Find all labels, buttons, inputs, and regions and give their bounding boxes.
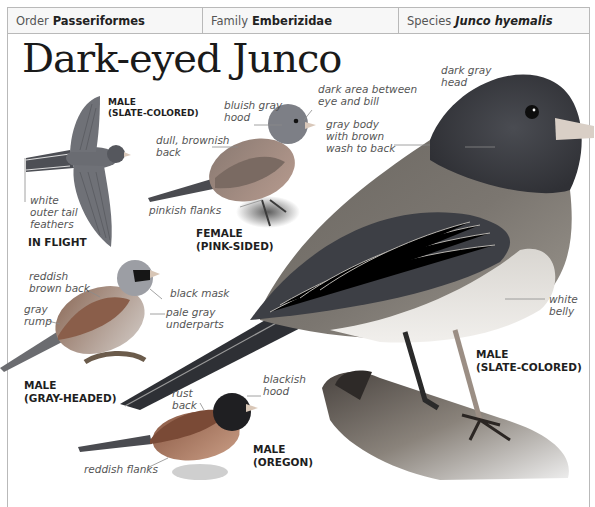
label-bluish-gray-hood-2: hood xyxy=(224,111,250,123)
label-gray-rump-2: rump xyxy=(24,315,52,327)
label-pinkish-flanks: pinkish flanks xyxy=(149,204,221,216)
label-dull-brownish-back-1: dull, brownish xyxy=(156,134,230,146)
label-gray-body-2: with brown xyxy=(326,130,384,142)
label-rust-back-1: rust xyxy=(172,387,193,399)
label-dark-area-eye-bill-2: eye and bill xyxy=(318,95,379,107)
label-white-outer-tail-2: outer tail xyxy=(30,206,78,218)
label-pale-gray-underparts-2: underparts xyxy=(166,318,224,330)
label-blackish-hood-1: blackish xyxy=(263,373,306,385)
in-flight-caption-sex: MALE xyxy=(108,97,136,108)
label-reddish-brown-back-2: brown back xyxy=(29,282,90,294)
label-dull-brownish-back-2: back xyxy=(156,146,181,158)
label-pale-gray-underparts-1: pale gray xyxy=(166,306,215,318)
label-dark-gray-head-1: dark gray xyxy=(441,64,491,76)
slate-male-caption-form: (SLATE-COLORED) xyxy=(476,361,582,374)
oregon-caption-form: (OREGON) xyxy=(253,456,313,469)
label-dark-area-eye-bill-1: dark area between xyxy=(318,83,417,95)
label-white-belly-2: belly xyxy=(549,305,574,317)
slate-male-caption-sex: MALE xyxy=(476,348,508,361)
label-white-belly-1: white xyxy=(549,293,578,305)
female-caption-sex: FEMALE xyxy=(196,227,243,240)
label-white-outer-tail-1: white xyxy=(30,194,59,206)
label-rust-back-2: back xyxy=(172,399,197,411)
label-reddish-flanks: reddish flanks xyxy=(84,463,158,475)
label-black-mask: black mask xyxy=(170,287,229,299)
label-reddish-brown-back-1: reddish xyxy=(29,270,68,282)
label-white-outer-tail-3: feathers xyxy=(30,218,74,230)
label-dark-gray-head-2: head xyxy=(441,76,467,88)
label-blackish-hood-2: hood xyxy=(263,385,289,397)
in-flight-caption-view: IN FLIGHT xyxy=(28,236,87,249)
oregon-caption-sex: MALE xyxy=(253,443,285,456)
label-gray-body-1: gray body xyxy=(326,118,379,130)
female-caption-form: (PINK-SIDED) xyxy=(196,240,274,253)
label-gray-body-3: wash to back xyxy=(326,142,395,154)
gray-headed-caption-form: (GRAY-HEADED) xyxy=(24,392,117,405)
in-flight-caption-form: (SLATE-COLORED) xyxy=(108,108,199,119)
label-gray-rump-1: gray xyxy=(24,303,48,315)
gray-headed-caption-sex: MALE xyxy=(24,379,56,392)
label-bluish-gray-hood-1: bluish gray xyxy=(224,99,282,111)
